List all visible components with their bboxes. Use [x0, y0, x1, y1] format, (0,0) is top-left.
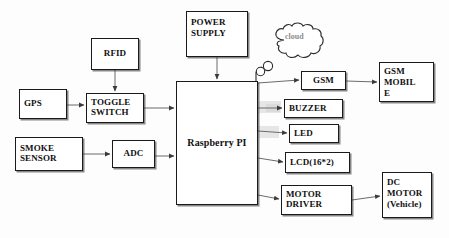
block-raspberry-pi-label: Raspberry PI [187, 138, 246, 149]
edge-rpi-to-lcd [258, 158, 283, 162]
block-dc-motor-label: DC MOTOR (Vehicle) [383, 177, 422, 210]
antenna-signal-icon [256, 61, 273, 84]
edge-motor-driver-to-dc-motor [352, 196, 380, 200]
block-diagram-canvas: cloud GPS RFID TOGGLE SWITCH SMOKE SENSO… [0, 0, 449, 238]
block-gps-label: GPS [20, 99, 42, 109]
edge-rpi-to-motor-driver [258, 195, 279, 199]
block-rfid[interactable]: RFID [91, 38, 139, 70]
block-motor-driver-label: MOTOR DRIVER [282, 190, 322, 209]
edge-gsm-to-gsm-mobile [346, 81, 377, 82]
block-dc-motor[interactable]: DC MOTOR (Vehicle) [382, 172, 432, 218]
block-rfid-label: RFID [104, 49, 126, 59]
block-gsm-mobile-label: GSM MOBIL E [380, 66, 416, 99]
edge-rpi-to-gsm [258, 80, 299, 83]
cloud-label: cloud [285, 32, 304, 41]
block-lcd[interactable]: LCD(16*2) [285, 152, 350, 173]
block-motor-driver[interactable]: MOTOR DRIVER [281, 185, 352, 215]
block-gps[interactable]: GPS [19, 89, 67, 119]
block-gsm-label: GSM [313, 76, 334, 86]
block-smoke-sensor[interactable]: SMOKE SENSOR [15, 137, 83, 171]
block-buzzer-label: BUZZER [285, 104, 327, 114]
block-toggle-switch[interactable]: TOGGLE SWITCH [86, 93, 144, 123]
block-lcd-label: LCD(16*2) [286, 158, 334, 168]
block-toggle-switch-label: TOGGLE SWITCH [87, 98, 130, 117]
block-power-supply-label: POWER SUPPLY [187, 17, 226, 40]
scan-artifact-led [259, 126, 279, 138]
block-buzzer[interactable]: BUZZER [284, 99, 343, 118]
block-smoke-sensor-label: SMOKE SENSOR [16, 144, 57, 163]
block-adc[interactable]: ADC [112, 140, 155, 168]
scan-artifact-buzzer-2 [266, 104, 280, 112]
block-raspberry-pi[interactable]: Raspberry PI [176, 81, 258, 205]
block-led[interactable]: LED [289, 124, 339, 143]
block-gsm[interactable]: GSM [301, 71, 346, 90]
block-power-supply[interactable]: POWER SUPPLY [186, 11, 248, 57]
block-led-label: LED [290, 129, 313, 139]
block-gsm-mobile[interactable]: GSM MOBIL E [379, 62, 434, 102]
block-adc-label: ADC [124, 149, 144, 159]
